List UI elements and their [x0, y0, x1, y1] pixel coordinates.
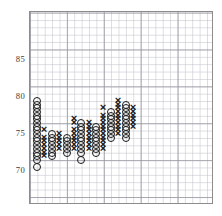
y-tick-75: 75: [1, 128, 25, 138]
y-tick-80: 80: [1, 91, 25, 101]
y-axis-labels: 85 80 75 70: [0, 0, 222, 216]
y-tick-70: 70: [1, 165, 25, 175]
y-tick-85: 85: [1, 54, 25, 64]
point-and-figure-chart: 85 80 75 70: [0, 0, 222, 216]
